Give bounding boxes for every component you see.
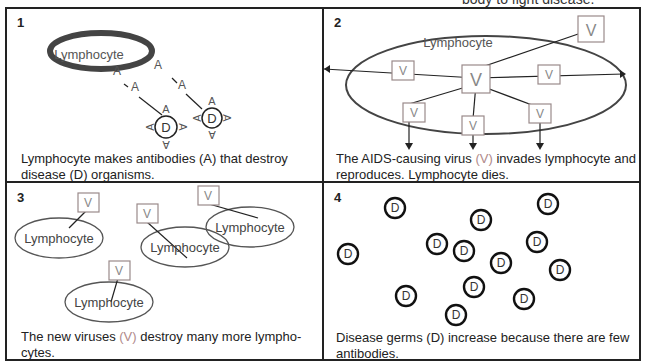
- svg-text:D: D: [207, 111, 216, 126]
- svg-text:A: A: [162, 103, 170, 115]
- panel-caption: Lymphocyte makes antibodies (A) that des…: [21, 151, 321, 183]
- panel-4: 4 DDD DDD DDD DDD D Disease germs (D) in…: [324, 184, 640, 356]
- svg-text:V: V: [115, 264, 123, 278]
- svg-text:D: D: [544, 197, 553, 211]
- svg-text:D: D: [520, 292, 529, 306]
- svg-text:V: V: [410, 106, 418, 120]
- panel-caption: The AIDS-causing virus (V) invades lymph…: [336, 151, 636, 183]
- svg-text:V: V: [586, 22, 597, 39]
- svg-text:A: A: [177, 123, 189, 131]
- panel-2: 2 Lymphocyte V V V V V V V: [324, 9, 640, 181]
- svg-text:A: A: [208, 129, 216, 141]
- svg-text:Lymphocyte: Lymphocyte: [24, 231, 94, 246]
- panel-3: 3 VVVV LymphocyteLymphocyteLymphocyteLym…: [7, 184, 323, 356]
- svg-text:A: A: [221, 114, 233, 122]
- svg-text:D: D: [161, 120, 170, 135]
- svg-text:Lymphocyte: Lymphocyte: [423, 35, 493, 50]
- svg-text:V: V: [545, 68, 553, 82]
- panel-1: 1 Lymphocyte A A A A D A A A A D A A A A…: [7, 9, 323, 181]
- panel-caption: Disease germs (D) increase because there…: [336, 330, 636, 362]
- svg-text:Lymphocyte: Lymphocyte: [150, 240, 220, 255]
- svg-text:D: D: [556, 263, 565, 277]
- caption-virus-symbol: (V): [475, 151, 492, 166]
- svg-text:A: A: [178, 78, 186, 92]
- svg-text:V: V: [399, 64, 407, 78]
- svg-text:D: D: [477, 213, 486, 227]
- svg-text:D: D: [470, 280, 479, 294]
- svg-text:A: A: [144, 123, 156, 131]
- svg-text:A: A: [162, 139, 170, 151]
- svg-text:D: D: [460, 244, 469, 258]
- caption-text: The new viruses: [21, 329, 119, 344]
- svg-text:V: V: [84, 196, 92, 210]
- svg-text:D: D: [497, 256, 506, 270]
- antibody-label: A: [154, 58, 162, 72]
- svg-text:V: V: [470, 70, 482, 90]
- svg-text:D: D: [344, 247, 353, 261]
- svg-text:V: V: [536, 107, 544, 121]
- svg-text:Lymphocyte: Lymphocyte: [215, 220, 285, 235]
- svg-text:D: D: [533, 235, 542, 249]
- svg-text:A: A: [191, 114, 203, 122]
- svg-text:D: D: [433, 237, 442, 251]
- cut-off-header-text: body to fight disease.: [462, 0, 594, 7]
- svg-text:V: V: [143, 207, 151, 221]
- caption-virus-symbol: (V): [119, 329, 136, 344]
- svg-text:A: A: [131, 80, 139, 94]
- svg-text:A: A: [208, 95, 216, 107]
- lymphocyte-label: Lymphocyte: [54, 47, 124, 62]
- svg-text:D: D: [402, 289, 411, 303]
- svg-text:D: D: [452, 308, 461, 322]
- svg-text:Lymphocyte: Lymphocyte: [74, 295, 144, 310]
- caption-text: The AIDS-causing virus: [336, 151, 475, 166]
- svg-text:V: V: [469, 119, 477, 133]
- antibody-label: A: [113, 64, 121, 78]
- svg-text:V: V: [204, 189, 212, 203]
- panel-caption: The new viruses (V) destroy many more ly…: [21, 329, 321, 361]
- svg-text:D: D: [391, 201, 400, 215]
